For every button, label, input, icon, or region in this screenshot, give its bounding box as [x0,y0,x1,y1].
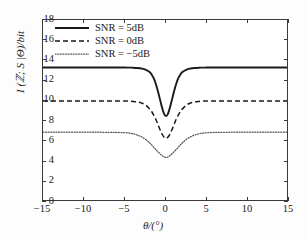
x-tick-mark [247,197,248,201]
y-tick-mark-right [284,80,288,81]
x-tick-mark [42,197,43,201]
legend-line-swatch [55,35,89,47]
legend-label: SNR = 0dB [95,35,144,47]
x-tick-mark [165,197,166,201]
x-tick-label: 10 [227,203,267,214]
y-tick-mark-right [284,120,288,121]
series-line-3 [43,132,288,157]
legend-label: SNR = −5dB [95,48,150,60]
chart-legend: SNR = 5dBSNR = 0dBSNR = −5dB [55,22,173,61]
x-axis-label: θ/(°) [0,219,306,231]
y-tick-label: 2 [8,175,54,186]
x-tick-mark-top [247,19,248,23]
y-axis-label-container: I (ℤ; S |Θ)/bit [14,0,30,142]
y-tick-mark-right [284,59,288,60]
series-line-1 [43,68,288,117]
x-tick-mark [288,197,289,201]
x-tick-mark-top [288,19,289,23]
y-axis-label: I (ℤ; S |Θ)/bit [14,0,27,142]
x-tick-label: 15 [268,203,306,214]
legend-item: SNR = 0dB [55,35,173,47]
y-tick-mark-right [284,39,288,40]
x-tick-label: −10 [63,203,103,214]
legend-item: SNR = −5dB [55,48,173,60]
x-tick-label: −15 [22,203,62,214]
legend-line-swatch [55,22,89,34]
x-tick-mark [83,197,84,201]
x-tick-mark-top [206,19,207,23]
y-tick-label: 4 [8,155,54,166]
legend-line-swatch [55,48,89,60]
y-tick-mark-right [284,100,288,101]
y-tick-mark-right [284,201,288,202]
legend-item: SNR = 5dB [55,22,173,34]
x-tick-label: −5 [104,203,144,214]
y-tick-mark-right [284,140,288,141]
x-tick-label: 5 [186,203,226,214]
y-tick-mark-right [284,181,288,182]
x-tick-label: 0 [145,203,185,214]
x-tick-mark [124,197,125,201]
x-tick-mark [206,197,207,201]
y-tick-mark-right [284,161,288,162]
legend-label: SNR = 5dB [95,22,144,34]
chart-figure: 024681012141618 −15−10−5051015 I (ℤ; S |… [0,0,306,240]
x-tick-mark-top [42,19,43,23]
